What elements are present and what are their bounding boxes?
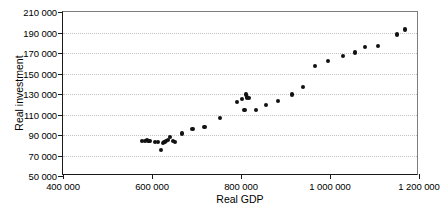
y-axis-tick-label: 150 000 [23, 68, 57, 79]
x-axis-tick-label: 400 000 [46, 181, 80, 192]
x-axis-tick [330, 174, 331, 179]
plot-area: 50 00070 00090 000110 000130 000150 0001… [62, 11, 418, 175]
y-gridline [63, 94, 417, 95]
data-point [353, 50, 357, 54]
y-gridline [63, 33, 417, 34]
y-axis-tick-label: 170 000 [23, 48, 57, 59]
data-point [218, 116, 222, 120]
y-axis-tick [58, 156, 63, 157]
data-point [159, 148, 163, 152]
y-axis-tick [58, 115, 63, 116]
data-point [301, 85, 305, 89]
x-axis-title: Real GDP [62, 193, 418, 205]
data-point [180, 131, 184, 135]
y-axis-tick-label: 90 000 [29, 130, 57, 141]
data-point [173, 140, 177, 144]
data-point [313, 64, 317, 68]
y-axis-tick [58, 12, 63, 13]
data-point [276, 99, 280, 103]
data-point [395, 32, 399, 36]
data-point [235, 100, 239, 104]
y-gridline [63, 53, 417, 54]
y-axis-tick [58, 74, 63, 75]
x-axis-tick [241, 174, 242, 179]
y-axis-title: Real investment [13, 11, 26, 175]
data-point [156, 140, 160, 144]
y-axis-tick-label: 130 000 [23, 89, 57, 100]
data-point [363, 45, 367, 49]
y-axis-tick-label: 210 000 [23, 7, 57, 18]
data-point [290, 92, 294, 96]
y-axis-tick [58, 135, 63, 136]
scatter-chart-figure: 50 00070 00090 000110 000130 000150 0001… [0, 0, 442, 212]
data-point [190, 127, 194, 131]
data-point [341, 54, 345, 58]
x-axis-tick [152, 174, 153, 179]
data-point [403, 27, 407, 31]
y-axis-tick-label: 110 000 [24, 109, 57, 120]
data-point [254, 108, 258, 112]
y-gridline [63, 135, 417, 136]
data-point [148, 139, 152, 143]
y-gridline [63, 115, 417, 116]
y-axis-tick-label: 70 000 [29, 150, 57, 161]
data-point [202, 125, 206, 129]
y-gridline [63, 74, 417, 75]
data-point [264, 103, 268, 107]
data-point [247, 96, 251, 100]
data-point [240, 97, 244, 101]
y-axis-tick [58, 53, 63, 54]
x-axis-tick-label: 800 000 [224, 181, 258, 192]
x-axis-tick [419, 174, 420, 179]
data-point [376, 44, 380, 48]
y-axis-tick-label: 190 000 [23, 27, 57, 38]
y-axis-tick-label: 50 000 [29, 171, 57, 182]
data-point [242, 108, 246, 112]
y-axis-tick [58, 33, 63, 34]
y-gridline [63, 156, 417, 157]
x-axis-tick [63, 174, 64, 179]
data-point [326, 59, 330, 63]
x-axis-tick-label: 1 000 000 [309, 181, 350, 192]
x-axis-tick-label: 1 200 000 [398, 181, 439, 192]
x-axis-tick-label: 600 000 [135, 181, 169, 192]
y-axis-tick [58, 94, 63, 95]
